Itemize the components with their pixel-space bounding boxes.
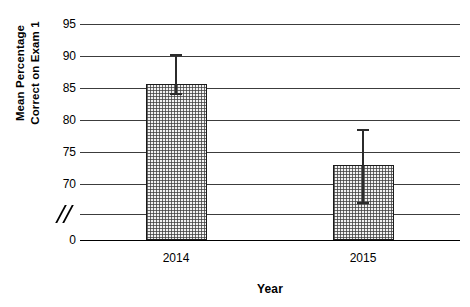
- gridline-70: [80, 184, 460, 185]
- y-tick-label-80: 80: [46, 114, 76, 126]
- bar-2014: [146, 84, 207, 240]
- y-tick-label-85: 85: [46, 82, 76, 94]
- error-bar-cap-lower-2015: [357, 202, 369, 204]
- gridline-95: [80, 24, 460, 25]
- gridline-75: [80, 152, 460, 153]
- gridline-85: [80, 88, 460, 89]
- axis-break-icon: [56, 205, 78, 223]
- gridline-90: [80, 56, 460, 57]
- error-bar-stem-2015: [362, 129, 364, 202]
- gridline-axis-break: [80, 214, 460, 215]
- error-bar-cap-upper-2015: [357, 129, 369, 131]
- y-axis-title-line1: Mean Percentage: [13, 25, 28, 121]
- y-axis-tick-labels: 9590858075700: [46, 0, 76, 307]
- x-axis-baseline: [80, 240, 460, 241]
- x-tick-label-2014: 2014: [136, 252, 216, 264]
- error-bar-cap-lower-2014: [170, 93, 182, 95]
- y-tick-label-90: 90: [46, 50, 76, 62]
- y-axis-title: Mean Percentage Correct on Exam 1: [11, 0, 45, 163]
- bar-chart: Mean Percentage Correct on Exam 1 959085…: [0, 0, 470, 307]
- plot-area: [80, 16, 460, 248]
- x-axis-title: Year: [80, 283, 460, 295]
- error-bar-cap-upper-2014: [170, 54, 182, 56]
- error-bar-stem-2014: [175, 54, 177, 93]
- y-tick-label-70: 70: [46, 178, 76, 190]
- x-tick-label-2015: 2015: [323, 252, 403, 264]
- y-tick-label-0: 0: [46, 234, 76, 246]
- y-tick-label-95: 95: [46, 18, 76, 30]
- y-tick-label-75: 75: [46, 146, 76, 158]
- gridline-80: [80, 120, 460, 121]
- y-axis-title-line2: Correct on Exam 1: [28, 21, 43, 124]
